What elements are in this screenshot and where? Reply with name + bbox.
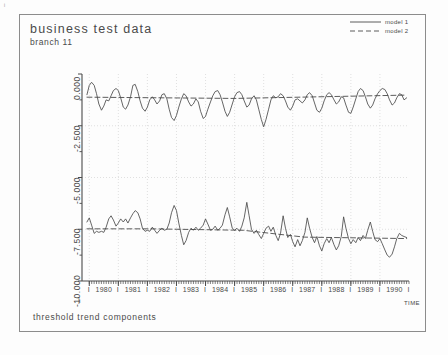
x-axis-tick-separator: I: [117, 286, 119, 293]
x-axis-tick-separator: I: [175, 286, 177, 293]
chart-figure: i business test data branch 11 threshold…: [0, 0, 448, 355]
x-axis-tick-separator: I: [146, 286, 148, 293]
x-axis-tick-separator: I: [233, 286, 235, 293]
x-axis-tick-separator: I: [291, 286, 293, 293]
x-axis-tick-label: 1989: [350, 286, 380, 293]
x-axis-tick-label: 1990: [379, 286, 409, 293]
x-axis-tick-separator: I: [262, 286, 264, 293]
legend-label-model-2: model 2: [385, 28, 408, 34]
legend-label-model-1: model 1: [385, 19, 408, 25]
series-line-model-2-lower: [87, 229, 407, 239]
x-axis-tick-label: 1980: [89, 286, 119, 293]
chart-subtitle: branch 11: [30, 37, 73, 47]
x-axis-tick-separator: I: [378, 286, 380, 293]
x-axis-tick-separator: I: [88, 286, 90, 293]
x-axis-tick-label: 1987: [292, 286, 322, 293]
x-axis-tick-label: 1981: [118, 286, 148, 293]
x-axis-tick-separator: I: [204, 286, 206, 293]
x-axis-tick-separator: I: [408, 286, 410, 293]
chart-caption: threshold trend components: [33, 312, 157, 322]
x-axis-tick-separator: I: [320, 286, 322, 293]
series-line-model-1-lower: [87, 202, 407, 257]
x-axis-tick-label: 1985: [234, 286, 264, 293]
y-axis-tick-label: -10.000: [72, 275, 82, 307]
x-axis-origin-marker: |: [78, 296, 80, 303]
x-axis-tick-label: 1986: [263, 286, 293, 293]
x-axis-tick-separator: I: [349, 286, 351, 293]
chart-title: business test data: [30, 22, 152, 36]
y-axis-tick-label: -7.500: [72, 228, 82, 255]
x-axis-tick-label: 1988: [321, 286, 351, 293]
chart-canvas: [0, 0, 448, 355]
y-axis-tick-label: -5.000: [72, 176, 82, 203]
y-axis-tick-label: 0.000: [72, 76, 82, 100]
x-axis-tick-label: 1982: [147, 286, 177, 293]
series-line-model-2-upper: [87, 95, 407, 98]
series-line-model-1-upper: [87, 82, 407, 127]
y-axis-tick-label: -2.500: [72, 125, 82, 152]
x-axis-tick-label: 1983: [176, 286, 206, 293]
x-axis-tick-label: 1984: [205, 286, 235, 293]
x-axis-label: TIME: [404, 300, 420, 306]
